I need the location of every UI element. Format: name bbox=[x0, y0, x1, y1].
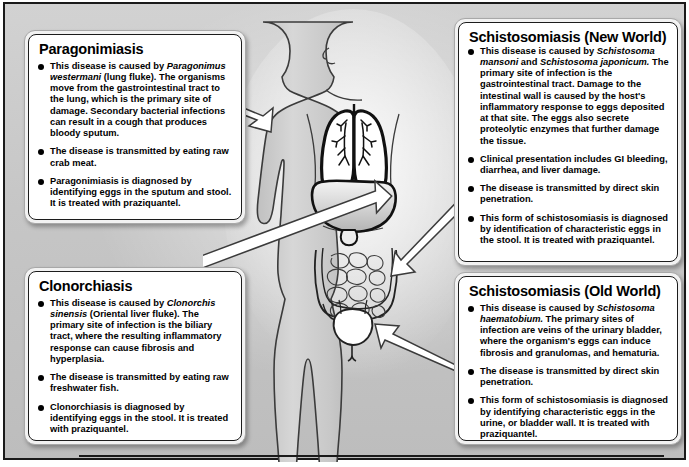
panel-title: Schistosomiasis (Old World) bbox=[469, 284, 669, 300]
bullet-text: This form of schistosomiasis is diagnose… bbox=[480, 213, 668, 245]
scientific-name: Schistosoma japonicum. bbox=[540, 57, 650, 67]
bullet-dot bbox=[468, 49, 474, 55]
bullet-item: Clonorchiasis is diagnosed by identifyin… bbox=[38, 402, 233, 436]
bullet-dot bbox=[468, 216, 474, 222]
bullet-item: The disease is transmitted by direct ski… bbox=[468, 366, 669, 388]
panel-clonorchiasis: Clonorchiasis This disease is caused by … bbox=[24, 267, 246, 445]
bullet-item: The disease is transmitted by eating raw… bbox=[38, 146, 233, 168]
bullet-text: and bbox=[518, 57, 540, 67]
panel-title: Paragonimiasis bbox=[39, 42, 233, 58]
bullet-item: This disease is caused by Paragonimus we… bbox=[38, 61, 233, 140]
bullet-text: The disease is transmitted by direct ski… bbox=[480, 366, 659, 387]
bullet-item: This disease is caused by Schistosoma ma… bbox=[468, 46, 669, 147]
bullet-dot bbox=[38, 405, 44, 411]
bullet-item: This form of schistosomiasis is diagnose… bbox=[468, 395, 669, 440]
panel-body: Paragonimiasis This disease is caused by… bbox=[28, 34, 242, 220]
bullet-text: Clonorchiasis is diagnosed by identifyin… bbox=[50, 402, 228, 434]
bullet-item: This disease is caused by Clonorchis sin… bbox=[38, 298, 233, 365]
bullet-dot bbox=[38, 64, 44, 70]
bullet-text: The disease is transmitted by eating raw… bbox=[50, 146, 229, 167]
panel-title: Clonorchiasis bbox=[39, 279, 233, 295]
bullet-text: Paragonimiasis is diagnosed by identifyi… bbox=[50, 176, 231, 208]
bullet-text: The primary site of infection is the gas… bbox=[480, 57, 669, 146]
bullet-dot bbox=[38, 375, 44, 381]
bullet-item: This form of schistosomiasis is diagnose… bbox=[468, 213, 669, 247]
panel-paragonimiasis: Paragonimiasis This disease is caused by… bbox=[24, 30, 246, 224]
panel-body: Schistosomiasis (New World) This disease… bbox=[458, 22, 678, 262]
bullet-text: This form of schistosomiasis is diagnose… bbox=[480, 395, 668, 439]
bullet-list: This disease is caused by Paragonimus we… bbox=[38, 61, 233, 210]
bullet-dot bbox=[468, 398, 474, 404]
bullet-item: The disease is transmitted by direct ski… bbox=[468, 183, 669, 205]
bullet-text: The disease is transmitted by eating raw… bbox=[50, 372, 229, 393]
bullet-dot bbox=[468, 157, 474, 163]
bullet-text: This disease is caused by bbox=[50, 61, 167, 71]
bullet-item: Paragonimiasis is diagnosed by identifyi… bbox=[38, 176, 233, 210]
bullet-list: This disease is caused by Schistosoma ha… bbox=[468, 303, 669, 441]
bullet-text: This disease is caused by bbox=[50, 298, 167, 308]
panel-body: Schistosomiasis (Old World) This disease… bbox=[458, 276, 678, 441]
diagram-root: Paragonimiasis This disease is caused by… bbox=[0, 0, 689, 467]
bullet-dot bbox=[38, 179, 44, 185]
bullet-dot bbox=[468, 186, 474, 192]
bullet-text: This disease is caused by bbox=[480, 46, 597, 56]
bullet-dot bbox=[468, 306, 474, 312]
bottom-divider bbox=[79, 455, 664, 457]
bullet-item: The disease is transmitted by eating raw… bbox=[38, 372, 233, 394]
bullet-item: Clinical presentation includes GI bleedi… bbox=[468, 154, 669, 176]
bullet-dot bbox=[38, 149, 44, 155]
panel-schistosomiasis-new-world: Schistosomiasis (New World) This disease… bbox=[454, 18, 682, 266]
bullet-list: This disease is caused by Clonorchis sin… bbox=[38, 298, 233, 436]
panel-title: Schistosomiasis (New World) bbox=[469, 30, 669, 46]
bullet-item: This disease is caused by Schistosoma ha… bbox=[468, 303, 669, 359]
bullet-list: This disease is caused by Schistosoma ma… bbox=[468, 46, 669, 247]
bullet-text: This disease is caused by bbox=[480, 303, 597, 313]
figure-frame: Paragonimiasis This disease is caused by… bbox=[3, 2, 686, 460]
bullet-text: Clinical presentation includes GI bleedi… bbox=[480, 154, 668, 175]
bullet-text: The disease is transmitted by direct ski… bbox=[480, 183, 659, 204]
bullet-dot bbox=[38, 301, 44, 307]
bullet-dot bbox=[468, 369, 474, 375]
panel-schistosomiasis-old-world: Schistosomiasis (Old World) This disease… bbox=[454, 272, 682, 445]
panel-body: Clonorchiasis This disease is caused by … bbox=[28, 271, 242, 441]
